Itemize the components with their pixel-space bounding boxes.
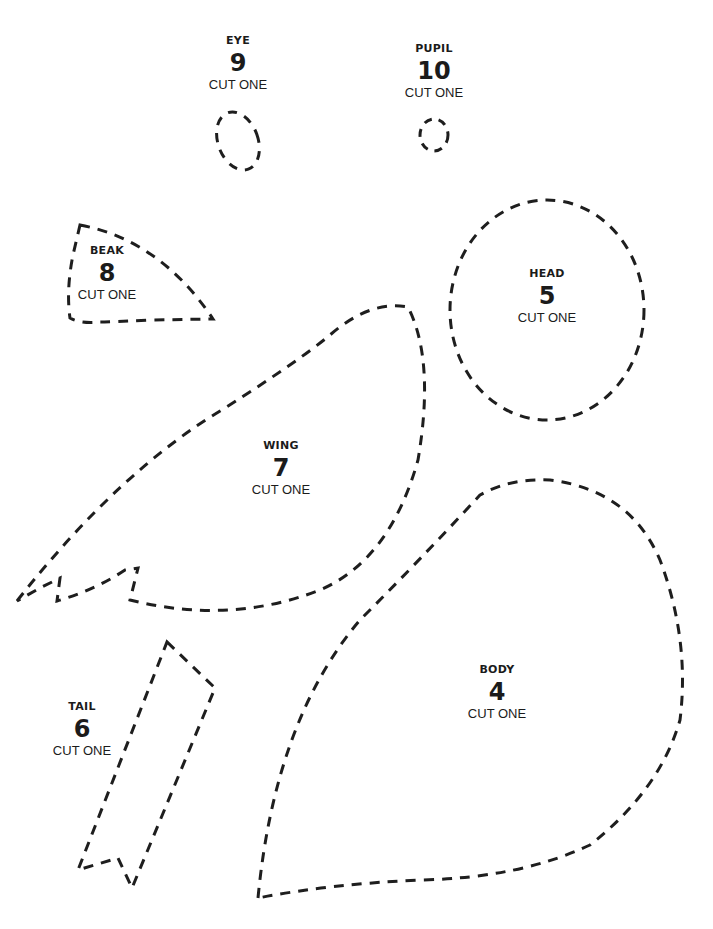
piece-name: TAIL [22,701,142,712]
cut-instruction: CUT ONE [22,744,142,757]
piece-number: 9 [178,51,298,75]
piece-number: 6 [22,717,142,741]
cut-instruction: CUT ONE [47,288,167,301]
piece-name: WING [221,440,341,451]
eye-outline [209,106,267,176]
piece-number: 5 [487,284,607,308]
cut-instruction: CUT ONE [178,78,298,91]
cut-instruction: CUT ONE [374,86,494,99]
piece-name: BEAK [47,245,167,256]
tail-label: TAIL 6 CUT ONE [22,701,142,757]
piece-name: PUPIL [374,43,494,54]
head-label: HEAD 5 CUT ONE [487,268,607,324]
body-label: BODY 4 CUT ONE [437,664,557,720]
tail-outline [78,642,215,888]
wing-label: WING 7 CUT ONE [221,440,341,496]
eye-label: EYE 9 CUT ONE [178,35,298,91]
beak-label: BEAK 8 CUT ONE [47,245,167,301]
pupil-label: PUPIL 10 CUT ONE [374,43,494,99]
pupil-outline [420,119,448,151]
piece-number: 10 [374,59,494,83]
cut-instruction: CUT ONE [487,311,607,324]
piece-number: 8 [47,261,167,285]
cut-instruction: CUT ONE [437,707,557,720]
piece-number: 4 [437,680,557,704]
piece-number: 7 [221,456,341,480]
cut-instruction: CUT ONE [221,483,341,496]
piece-name: HEAD [487,268,607,279]
piece-name: BODY [437,664,557,675]
pattern-outlines [0,0,713,929]
piece-name: EYE [178,35,298,46]
